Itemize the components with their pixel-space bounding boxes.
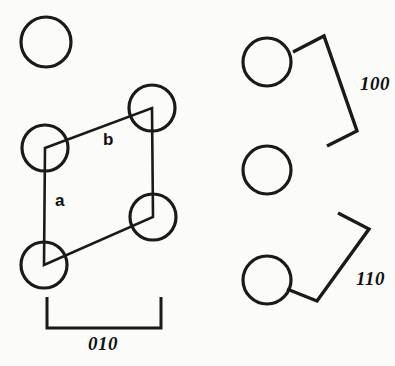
plane-bracket-100 [293, 36, 357, 146]
dimension-label-010: 010 [88, 333, 118, 354]
atom-100-lower [243, 146, 291, 194]
crystal-lattice-diagram: a b 010 100 110 [0, 0, 395, 366]
lattice-vector-b-label: b [103, 130, 113, 149]
diagram-canvas: a b 010 100 110 [0, 0, 395, 366]
dimension-bracket-010 [47, 297, 161, 328]
atom-free-top-left [21, 17, 71, 67]
plane-label-100: 100 [360, 73, 390, 94]
atom-100-upper [243, 38, 291, 86]
atom-110-lower [243, 256, 291, 304]
lattice-vector-a-label: a [55, 191, 65, 210]
plane-label-110: 110 [356, 268, 385, 289]
